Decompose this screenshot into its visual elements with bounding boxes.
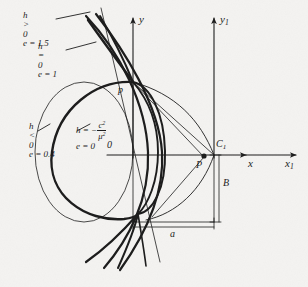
circle-caption-fraction: c2 μ2: [97, 120, 106, 141]
vertex-p-label: p: [118, 85, 123, 96]
ellipse-caption-line1: h<0: [29, 122, 55, 150]
conic-orbit-diagram: h>0 e = 1.5 h=0 e = 1 h<0 e = 0.4 h = − …: [0, 0, 308, 287]
b-dimension-label: B: [223, 178, 229, 189]
a-dimension-label: a: [170, 229, 175, 240]
focus-point-marker: [201, 153, 206, 158]
parabola-caption-line1: h=0: [38, 42, 57, 70]
tail-upper-mid: [100, 16, 133, 82]
origin-label: 0: [107, 140, 112, 151]
y-axis-label: y: [139, 14, 144, 26]
focus-p-label: P: [196, 160, 202, 171]
fraction-denominator: μ2: [97, 131, 106, 141]
hyperbola-caption-line1: h>0: [23, 11, 49, 39]
ellipse-caption: h<0 e = 0.4: [29, 122, 55, 160]
x1-axis-label: x1: [285, 158, 294, 171]
tail-upper-left: [88, 20, 133, 82]
circle-caption-line2: e = 0: [76, 142, 106, 151]
y1-axis-label: y1: [220, 14, 229, 27]
leader-hyperbola: [56, 12, 90, 19]
circle-caption: h = − c2 μ2 e = 0: [76, 120, 106, 152]
center-c1-label: C1: [216, 139, 226, 151]
axes-group: [107, 18, 296, 158]
fraction-numerator: c2: [97, 120, 106, 131]
circle-caption-line1: h = − c2 μ2: [76, 125, 106, 135]
x-axis-label: x: [248, 158, 253, 170]
ellipse-caption-line2: e = 0.4: [29, 150, 55, 159]
parabola-caption-line2: e = 1: [38, 70, 57, 79]
parabola-caption: h=0 e = 1: [38, 42, 57, 80]
leader-parabola: [66, 42, 96, 50]
